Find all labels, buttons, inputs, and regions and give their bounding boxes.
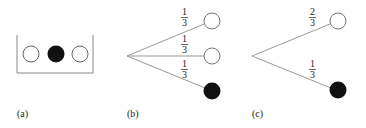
numerator: 1 — [182, 58, 187, 69]
numerator: 2 — [310, 6, 315, 17]
panel-label-c: (c) — [252, 108, 263, 120]
branch-line — [252, 24, 330, 56]
denominator: 3 — [182, 69, 187, 80]
branch-line — [252, 56, 331, 88]
panel-c: 2 3 1 3 (c) — [252, 6, 347, 120]
white-ball — [330, 13, 346, 29]
branch-line — [127, 24, 204, 56]
white-ball — [72, 46, 88, 62]
denominator: 3 — [182, 44, 187, 55]
numerator: 1 — [182, 33, 187, 44]
branch-probability: 1 3 — [181, 6, 188, 28]
white-ball — [204, 13, 220, 29]
denominator: 3 — [310, 69, 315, 80]
black-ball — [330, 82, 347, 99]
branch-probability: 2 3 — [309, 6, 316, 28]
black-ball — [204, 83, 221, 100]
probability-tree-diagram: (a) 1 3 1 3 1 3 (b) 2 — [0, 0, 366, 128]
branch-probability: 1 3 — [181, 58, 188, 80]
panel-label-a: (a) — [17, 108, 28, 120]
white-ball — [23, 46, 39, 62]
branch-probability: 1 3 — [181, 33, 188, 55]
black-ball — [48, 46, 65, 63]
denominator: 3 — [182, 17, 187, 28]
panel-b: 1 3 1 3 1 3 (b) — [127, 6, 221, 120]
denominator: 3 — [310, 17, 315, 28]
numerator: 1 — [182, 6, 187, 17]
white-ball — [204, 48, 220, 64]
numerator: 1 — [310, 58, 315, 69]
panel-label-b: (b) — [127, 108, 139, 120]
branch-probability: 1 3 — [309, 58, 316, 80]
branch-line — [127, 56, 205, 88]
panel-a: (a) — [17, 35, 93, 120]
